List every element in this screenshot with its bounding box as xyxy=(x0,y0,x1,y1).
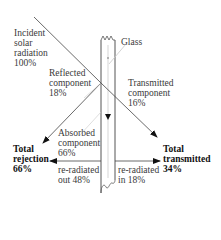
glass-leader-line xyxy=(109,44,126,64)
glass-label: Glass xyxy=(121,37,142,47)
reradiated-in-label: re-radiated in 18% xyxy=(118,165,159,185)
absorbed-label: Absorbed component 66% xyxy=(58,128,100,158)
absorbed-arrow-icon xyxy=(105,114,111,120)
transmitted-label: Transmitted component 16% xyxy=(128,78,174,108)
incident-label: Incident solar radiation 100% xyxy=(14,28,48,68)
total-rejection-label: Total rejection 66% xyxy=(13,144,49,174)
reflected-label: Reflected component 18% xyxy=(49,68,91,98)
total-transmitted-label: Total transmitted 34% xyxy=(163,144,211,174)
reradiated-out-label: re-radiated out 48% xyxy=(58,165,99,185)
glass-break-bottom-icon xyxy=(101,180,115,193)
glass-break-top-icon xyxy=(101,36,115,40)
